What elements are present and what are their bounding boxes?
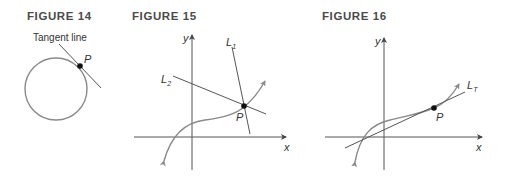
tangent-lt-label: LT xyxy=(467,79,478,93)
point-p-label: P xyxy=(436,111,444,123)
figure-16: FIGURE 16 y x P LT xyxy=(322,10,482,170)
point-p xyxy=(77,63,83,69)
x-axis-label: x xyxy=(283,141,290,153)
figure-16-title: FIGURE 16 xyxy=(322,10,387,22)
point-p xyxy=(431,105,437,111)
line-l2 xyxy=(173,76,266,114)
line-l2-label: L2 xyxy=(161,73,171,87)
point-p-label: P xyxy=(236,111,244,123)
curve xyxy=(355,84,459,162)
figure-15: FIGURE 15 y x P L1 L2 xyxy=(132,10,290,170)
figure-14: FIGURE 14 Tangent line P xyxy=(25,10,101,120)
tangent-line-lt xyxy=(345,92,465,148)
y-axis-label: y xyxy=(182,32,190,44)
point-p xyxy=(241,103,247,109)
y-axis-label: y xyxy=(374,35,382,47)
line-l1-label: L1 xyxy=(226,36,236,50)
x-axis-label: x xyxy=(475,141,482,153)
figures-canvas: FIGURE 14 Tangent line P FIGURE 15 y x P… xyxy=(0,0,510,184)
point-p-label: P xyxy=(84,53,92,65)
figure-15-title: FIGURE 15 xyxy=(132,10,197,22)
figure-14-title: FIGURE 14 xyxy=(27,10,92,22)
tangent-line-label: Tangent line xyxy=(33,32,87,43)
